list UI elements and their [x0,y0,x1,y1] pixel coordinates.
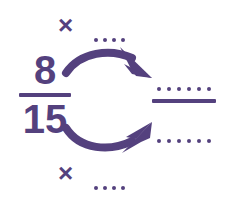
blank-dot [157,87,161,91]
source-denominator: 15 [14,99,76,141]
blank-dot [103,38,107,42]
source-fraction: 8 15 [14,50,76,141]
blank-dot [177,139,181,143]
result-fraction-bar [152,99,216,103]
blank-dot [197,139,201,143]
blank-dot [103,186,107,190]
blank-dot [197,87,201,91]
blank-dot [207,87,211,91]
result-numerator-blank[interactable] [150,84,218,94]
multiply-sign-top: × [58,12,73,38]
fraction-diagram-canvas: × 8 15 × [0,0,225,199]
blank-dot [121,186,125,190]
bottom-curved-arrow-icon [66,122,152,153]
blank-dot [167,139,171,143]
result-fraction [150,84,218,146]
multiply-sign-bottom: × [58,160,73,186]
blank-dot [157,139,161,143]
blank-dot [187,87,191,91]
blank-dot [112,186,116,190]
blank-dot [207,139,211,143]
blank-dot [94,186,98,190]
source-numerator: 8 [14,50,76,92]
blank-dot [167,87,171,91]
result-denominator-blank[interactable] [150,136,218,146]
blank-dot [177,87,181,91]
top-factor-blank[interactable] [94,38,125,42]
blank-dot [187,139,191,143]
blank-dot [121,38,125,42]
bottom-factor-blank[interactable] [94,186,125,190]
top-curved-arrow-icon [66,47,152,78]
blank-dot [112,38,116,42]
blank-dot [94,38,98,42]
